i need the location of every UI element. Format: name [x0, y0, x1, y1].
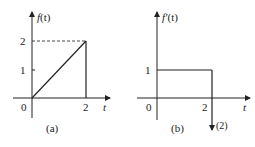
plot-a-ramp — [32, 41, 86, 98]
plot-b-ylabel: f′(t) — [162, 11, 178, 24]
plot-a: f(t) 2 1 0 2 t (a) — [13, 11, 110, 135]
plot-a-caption: (a) — [46, 122, 59, 135]
plot-a-xtick-2: 2 — [83, 101, 89, 113]
plot-b-ytick-1: 1 — [145, 64, 151, 76]
plot-b-caption: (b) — [171, 122, 184, 135]
plot-a-ylabel: f(t) — [37, 11, 51, 24]
plot-b-xtick-2: 2 — [202, 101, 208, 113]
plot-b-impulse-label: (2) — [216, 120, 228, 132]
figure-canvas: f(t) 2 1 0 2 t (a) f′(t) 1 0 2 t (2) (b) — [0, 0, 255, 147]
plot-a-ytick-1: 1 — [20, 64, 26, 76]
plot-b: f′(t) 1 0 2 t (2) (b) — [137, 11, 250, 135]
plot-b-xlabel: t — [243, 101, 247, 113]
plot-a-ytick-2: 2 — [20, 35, 26, 47]
plot-a-xlabel: t — [103, 101, 107, 113]
plot-a-origin: 0 — [21, 101, 27, 113]
plot-b-origin: 0 — [146, 101, 152, 113]
